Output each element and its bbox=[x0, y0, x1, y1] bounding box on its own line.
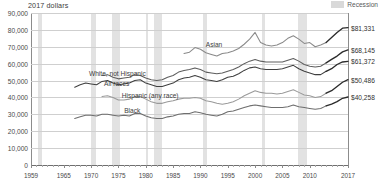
x-tick-minor bbox=[304, 165, 305, 167]
x-tick-minor bbox=[36, 165, 37, 167]
x-tick-label: 1985 bbox=[166, 172, 180, 179]
x-tick-label: 1990 bbox=[193, 172, 207, 179]
y-tick-label: 20,000 bbox=[0, 128, 28, 135]
x-tick-major bbox=[282, 165, 283, 168]
series-lines bbox=[31, 13, 348, 165]
value-callout: $61,372 bbox=[351, 58, 375, 65]
series-label: Black bbox=[124, 107, 140, 114]
x-tick-minor bbox=[266, 165, 267, 167]
y-tick-label: 40,000 bbox=[0, 94, 28, 101]
x-tick-minor bbox=[179, 165, 180, 167]
x-tick-minor bbox=[206, 165, 207, 167]
x-tick-label: 2010 bbox=[303, 172, 317, 179]
x-tick-major bbox=[118, 165, 119, 168]
x-tick-minor bbox=[58, 165, 59, 167]
x-tick-minor bbox=[86, 165, 87, 167]
x-tick-minor bbox=[157, 165, 158, 167]
x-tick-minor bbox=[162, 165, 163, 167]
x-tick-label: 2005 bbox=[275, 172, 289, 179]
y-tick-label: 90,000 bbox=[0, 10, 28, 17]
series-line-break-segment bbox=[326, 80, 348, 93]
x-tick-minor bbox=[337, 165, 338, 167]
x-tick-label: 2017 bbox=[341, 172, 355, 179]
x-tick-minor bbox=[217, 165, 218, 167]
x-tick-minor bbox=[299, 165, 300, 167]
x-tick-major bbox=[173, 165, 174, 168]
value-callout: $40,258 bbox=[351, 94, 375, 101]
x-tick-major bbox=[146, 165, 147, 168]
y-tick-label: 30,000 bbox=[0, 111, 28, 118]
x-tick-minor bbox=[211, 165, 212, 167]
series-line-black bbox=[75, 105, 326, 119]
x-tick-minor bbox=[332, 165, 333, 167]
series-line-break-segment bbox=[326, 61, 348, 71]
x-tick-minor bbox=[151, 165, 152, 167]
x-tick-label: 1975 bbox=[111, 172, 125, 179]
x-tick-major bbox=[228, 165, 229, 168]
x-tick-minor bbox=[53, 165, 54, 167]
value-callout: $81,331 bbox=[351, 24, 375, 31]
x-tick-minor bbox=[195, 165, 196, 167]
x-tick-minor bbox=[343, 165, 344, 167]
series-label: White, not Hispanic bbox=[89, 69, 146, 76]
x-tick-minor bbox=[184, 165, 185, 167]
x-tick-minor bbox=[75, 165, 76, 167]
x-tick-minor bbox=[326, 165, 327, 167]
x-tick-label: 1959 bbox=[24, 172, 38, 179]
legend-label-recession: Recession bbox=[347, 1, 378, 8]
series-label: All races bbox=[104, 80, 129, 87]
series-label: Asian bbox=[206, 41, 223, 48]
x-tick-minor bbox=[277, 165, 278, 167]
x-tick-minor bbox=[190, 165, 191, 167]
chart-root: 2017 dollars Recession 010,00020,00030,0… bbox=[0, 0, 382, 187]
x-tick-major bbox=[200, 165, 201, 168]
x-tick-major bbox=[64, 165, 65, 168]
value-callout: $68,145 bbox=[351, 46, 375, 53]
x-tick-minor bbox=[288, 165, 289, 167]
x-tick-minor bbox=[135, 165, 136, 167]
x-tick-major bbox=[91, 165, 92, 168]
plot-area bbox=[31, 13, 348, 165]
x-tick-minor bbox=[129, 165, 130, 167]
x-tick-minor bbox=[261, 165, 262, 167]
x-tick-minor bbox=[42, 165, 43, 167]
series-line-break-segment bbox=[326, 28, 348, 43]
x-tick-minor bbox=[80, 165, 81, 167]
value-callout: $50,486 bbox=[351, 76, 375, 83]
x-tick-major bbox=[255, 165, 256, 168]
x-tick-minor bbox=[124, 165, 125, 167]
x-tick-major bbox=[348, 165, 349, 168]
series-label: Hispanic (any race) bbox=[122, 91, 179, 98]
y-tick-label: 80,000 bbox=[0, 26, 28, 33]
series-line-break-segment bbox=[326, 97, 348, 106]
y-axis-unit-label: 2017 dollars bbox=[28, 1, 68, 10]
y-tick-label: 70,000 bbox=[0, 43, 28, 50]
x-tick-minor bbox=[168, 165, 169, 167]
x-tick-minor bbox=[321, 165, 322, 167]
x-tick-minor bbox=[233, 165, 234, 167]
x-tick-minor bbox=[315, 165, 316, 167]
x-tick-minor bbox=[140, 165, 141, 167]
x-tick-label: 1995 bbox=[221, 172, 235, 179]
chart-legend: Recession bbox=[331, 1, 378, 8]
series-line-break-segment bbox=[326, 50, 348, 63]
x-tick-major bbox=[31, 165, 32, 168]
y-tick-label: 60,000 bbox=[0, 60, 28, 67]
x-tick-minor bbox=[69, 165, 70, 167]
x-tick-minor bbox=[47, 165, 48, 167]
y-tick-label: 10,000 bbox=[0, 145, 28, 152]
x-tick-minor bbox=[113, 165, 114, 167]
x-tick-label: 2000 bbox=[248, 172, 262, 179]
x-tick-minor bbox=[97, 165, 98, 167]
x-tick-minor bbox=[102, 165, 103, 167]
recession-swatch-icon bbox=[331, 1, 344, 8]
x-tick-minor bbox=[244, 165, 245, 167]
y-tick-label: 0 bbox=[0, 162, 28, 169]
x-tick-label: 1980 bbox=[139, 172, 153, 179]
x-tick-minor bbox=[250, 165, 251, 167]
y-tick-label: 50,000 bbox=[0, 77, 28, 84]
x-tick-major bbox=[310, 165, 311, 168]
x-tick-label: 1965 bbox=[57, 172, 71, 179]
x-tick-minor bbox=[239, 165, 240, 167]
x-tick-label: 1970 bbox=[84, 172, 98, 179]
